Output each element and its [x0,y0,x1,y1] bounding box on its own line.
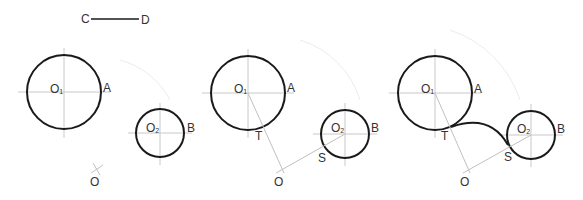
label-d: D [141,13,150,27]
panel-step-1: O1 A O2 B O [18,48,195,189]
label-c: C [81,12,90,26]
label-t: T [255,129,263,143]
label-o: O [460,175,469,189]
label-s: S [318,151,326,165]
line-o2-to-o [276,134,345,173]
label-o2: O2 [331,121,344,135]
label-b: B [187,121,195,135]
label-a: A [474,82,482,96]
label-o: O [274,175,283,189]
label-t: T [441,129,449,143]
label-o: O [90,175,99,189]
panel-step-3: O1 A O2 B T S O [389,30,565,189]
mark-o-2 [93,163,100,175]
line-o1-to-o [248,93,284,173]
label-a: A [287,81,295,95]
label-o1: O1 [50,82,63,96]
line-o2-to-o [463,135,531,173]
label-o1: O1 [421,82,434,96]
segment-cd: C D [81,12,150,27]
faint-construction-arc [120,60,170,100]
label-b: B [371,121,379,135]
label-o2: O2 [517,122,530,136]
tangent-arc-construction-diagram: C D O1 A O2 B O O1 A O2 B [0,0,583,200]
label-o2: O2 [146,121,159,135]
label-a: A [103,81,111,95]
label-s: S [504,150,512,164]
tangent-arc-ts [451,123,508,145]
panel-step-2: O1 A O2 B T S O [202,40,379,189]
faint-construction-arc [300,40,360,100]
label-o1: O1 [234,82,247,96]
label-b: B [557,122,565,136]
